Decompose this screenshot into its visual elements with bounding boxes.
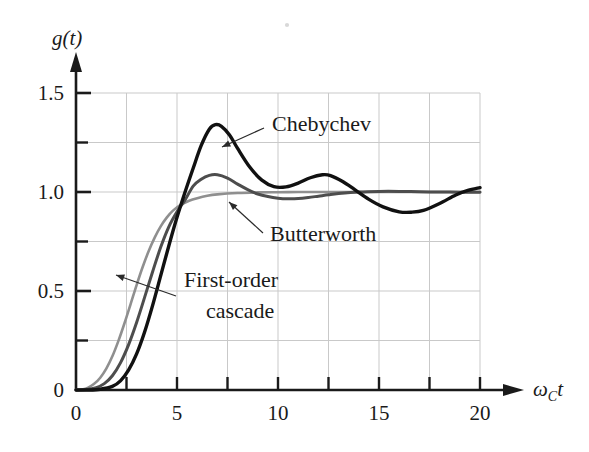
x-axis-title-omega: ω <box>533 377 548 401</box>
x-tick-label: 10 <box>268 401 289 425</box>
first-order-cascade-label-line2: cascade <box>206 298 274 323</box>
x-axis-arrowhead <box>503 384 524 396</box>
chart-figure: 00.51.01.505101520 ChebychevButterworthF… <box>0 0 589 452</box>
butterworth-label: Butterworth <box>270 221 376 246</box>
tick-labels: 00.51.01.505101520 <box>38 81 491 425</box>
y-axis-title: g(t) <box>52 26 82 50</box>
y-tick-label: 0 <box>54 378 65 402</box>
chebychev-label-leader-arrowhead <box>222 141 231 147</box>
step-response-plot: 00.51.01.505101520 ChebychevButterworthF… <box>0 0 589 452</box>
y-axis-arrowhead <box>70 52 82 72</box>
first-order-cascade-label-line1: First-order <box>184 267 279 292</box>
y-tick-label: 1.5 <box>38 81 64 105</box>
x-tick-label: 20 <box>470 401 491 425</box>
x-tick-label: 5 <box>172 401 183 425</box>
x-tick-label: 0 <box>71 401 82 425</box>
x-axis-title-variable: t <box>557 377 564 401</box>
y-tick-label: 0.5 <box>38 279 64 303</box>
x-axis-title: ωCt <box>533 377 564 404</box>
chebychev-label: Chebychev <box>272 111 371 136</box>
page-speck <box>285 23 289 27</box>
first-order-cascade-label-leader-arrowhead <box>116 275 125 281</box>
y-tick-label: 1.0 <box>38 180 64 204</box>
x-tick-label: 15 <box>369 401 390 425</box>
